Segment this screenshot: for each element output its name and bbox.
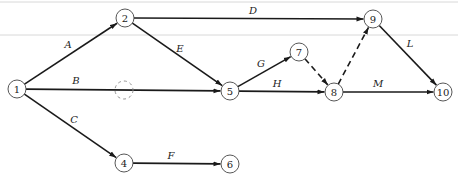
edge-label-g: G xyxy=(257,58,265,69)
node-1: 1 xyxy=(8,80,26,98)
edge-label-l: L xyxy=(406,38,414,49)
node-2: 2 xyxy=(116,9,134,27)
node-8: 8 xyxy=(325,83,343,101)
node-7: 7 xyxy=(290,43,308,61)
edge-1-2-arrow xyxy=(25,23,118,84)
edge-1-4-arrow xyxy=(24,94,116,157)
node-label: 5 xyxy=(227,86,233,97)
edge-5-8-arrow xyxy=(239,91,325,92)
node-6: 6 xyxy=(221,155,239,173)
edge-9-10-arrow xyxy=(379,25,436,85)
node-9: 9 xyxy=(364,10,382,28)
node-label: 1 xyxy=(14,84,20,95)
network-diagram: 1245678910 A B C D E F G H L M xyxy=(0,0,458,183)
node-label: 9 xyxy=(370,14,376,25)
node-label: 8 xyxy=(331,87,337,98)
edge-label-h: H xyxy=(272,78,282,89)
edge-8-9-dummy-arrow xyxy=(338,27,368,84)
edge-label-c: C xyxy=(70,114,78,125)
node-10: 10 xyxy=(434,83,452,101)
edge-label-a: A xyxy=(63,39,71,50)
edge-label-d: D xyxy=(248,5,257,16)
edge-label-f: F xyxy=(167,150,176,161)
edge-4-6-arrow xyxy=(133,163,221,164)
node-label: 10 xyxy=(437,87,450,98)
edge-label-b: B xyxy=(71,75,79,86)
node-5: 5 xyxy=(221,82,239,100)
node-label: 4 xyxy=(121,158,127,169)
edge-7-8-dummy-arrow xyxy=(305,59,328,85)
node-label: 7 xyxy=(296,47,302,58)
nodes-layer: 1245678910 xyxy=(8,9,452,173)
edge-label-e: E xyxy=(175,43,184,54)
node-label: 2 xyxy=(122,13,128,24)
edge-label-m: M xyxy=(372,78,384,89)
edge-labels-layer: A B C D E F G H L M xyxy=(63,5,413,161)
edge-1-5-arrow xyxy=(26,89,221,91)
edge-2-9-arrow xyxy=(134,18,364,19)
node-label: 6 xyxy=(227,159,233,170)
node-4: 4 xyxy=(115,154,133,172)
edge-2-5-arrow xyxy=(132,23,222,85)
